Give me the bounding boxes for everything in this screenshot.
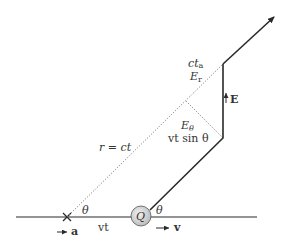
vt-sin-theta-label: vt sin θ: [167, 132, 209, 145]
ct-a-subscript: a: [199, 61, 204, 70]
ct-a-label: cta: [188, 57, 204, 70]
acceleration-label: a: [71, 225, 78, 238]
diagram-canvas: Q cta Er E Eθ vt sin θ r = ct θ θ vt a v: [0, 0, 285, 247]
ct-a-main: ct: [188, 57, 199, 70]
vt-label: vt: [97, 221, 109, 234]
field-line-outer-arrow: [223, 17, 274, 64]
charge-q-label: Q: [136, 210, 145, 223]
velocity-label: v: [173, 221, 181, 234]
e-theta-label: Eθ: [180, 119, 194, 133]
e-r-subscript: r: [198, 75, 202, 84]
theta-right-label: θ: [156, 204, 163, 217]
r-equals-ct-label: r = ct: [99, 141, 132, 154]
e-r-main: E: [189, 70, 198, 83]
e-r-label: Er: [189, 70, 202, 84]
e-theta-main: E: [180, 119, 189, 132]
theta-left-label: θ: [82, 204, 89, 217]
e-vector-label: E: [230, 93, 238, 106]
